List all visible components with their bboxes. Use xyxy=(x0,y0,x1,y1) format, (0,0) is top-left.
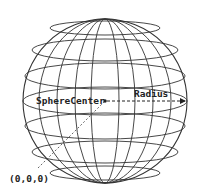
latitude-line xyxy=(25,113,185,139)
latitude-line xyxy=(32,39,178,61)
latitude-line xyxy=(32,141,178,163)
sphere-diagram: SphereCenter Radius (0,0,0) xyxy=(0,0,198,196)
latitude-line xyxy=(25,63,185,89)
origin-label: (0,0,0) xyxy=(9,173,49,184)
radius-label: Radius xyxy=(134,88,168,99)
sphere-center-label: SphereCenter xyxy=(36,95,105,106)
